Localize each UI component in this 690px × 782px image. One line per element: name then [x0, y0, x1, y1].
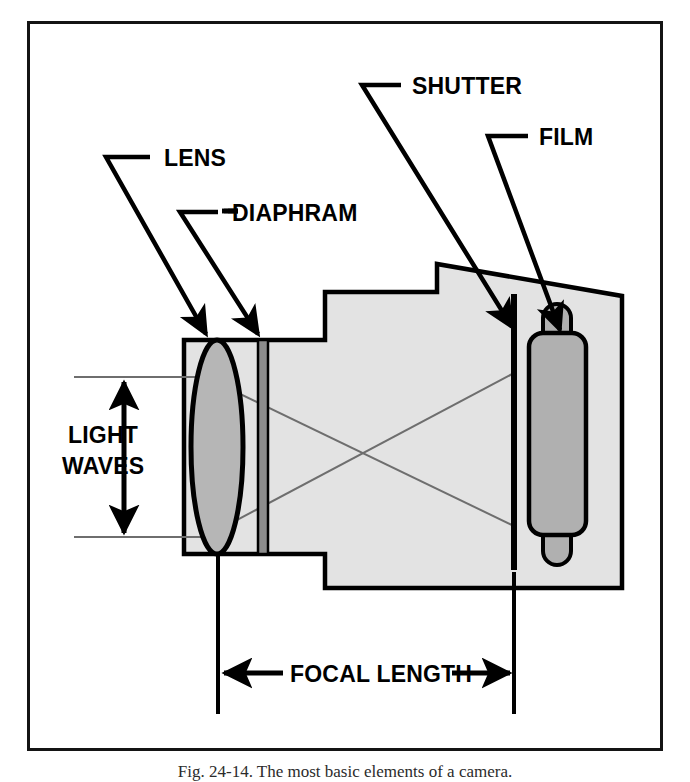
label-diaphram: DIAPHRAM: [232, 200, 358, 226]
label-focal-length: FOCAL LENGTH: [290, 661, 472, 687]
label-light-waves-line1: LIGHT: [68, 422, 138, 448]
label-shutter: SHUTTER: [412, 73, 522, 99]
label-light-waves-line2: WAVES: [62, 453, 144, 479]
label-film: FILM: [539, 124, 593, 150]
film-canister-body: [529, 333, 586, 535]
label-lens: LENS: [164, 145, 226, 171]
lens-element: [191, 340, 243, 554]
figure-caption: Fig. 24-14. The most basic elements of a…: [0, 762, 690, 782]
film-canister: [529, 304, 586, 565]
diaphram-element: [258, 340, 268, 554]
